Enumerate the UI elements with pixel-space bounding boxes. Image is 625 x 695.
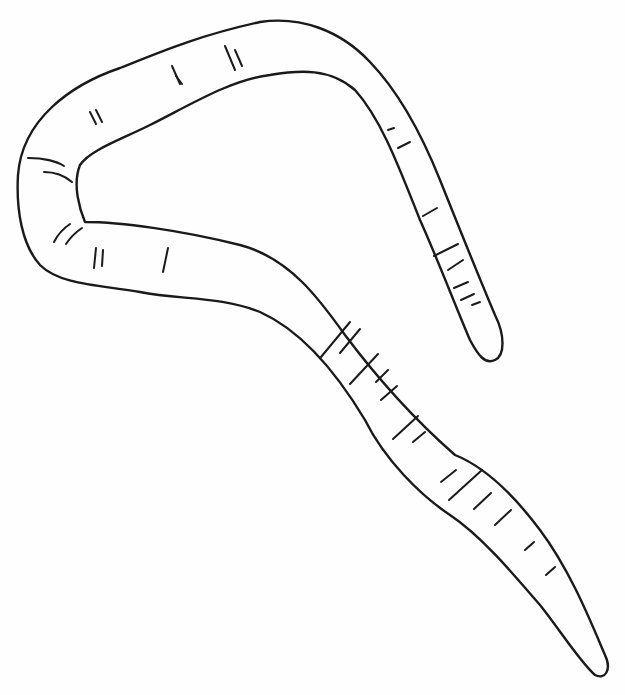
segment-mark [472,302,480,305]
worm-body-outline [18,21,608,677]
segment-mark [441,470,456,482]
segment-mark [54,224,70,242]
segment-mark [398,142,410,148]
segment-mark [393,416,418,439]
segment-mark [163,248,168,272]
segment-mark [90,112,96,124]
segment-mark [454,282,468,288]
segment-mark [413,432,425,442]
segment-mark [461,294,474,300]
segment-mark [28,158,64,166]
segment-mark [96,110,102,122]
segment-mark [235,50,242,66]
segment-mark [474,493,491,509]
segment-mark [495,510,511,525]
segment-mark [388,128,394,130]
segment-mark [423,208,437,216]
segment-mark [525,542,534,550]
segment-mark [44,172,72,182]
segment-mark [448,260,463,270]
segment-mark [102,250,103,266]
segment-mark [546,567,555,575]
illustration-canvas [0,0,625,695]
segment-mark [321,322,350,357]
segment-mark [94,248,96,268]
segment-mark [449,470,482,500]
segment-mark [434,244,458,256]
worm-drawing [0,0,625,695]
segment-mark [66,228,82,244]
segment-mark [225,46,235,70]
